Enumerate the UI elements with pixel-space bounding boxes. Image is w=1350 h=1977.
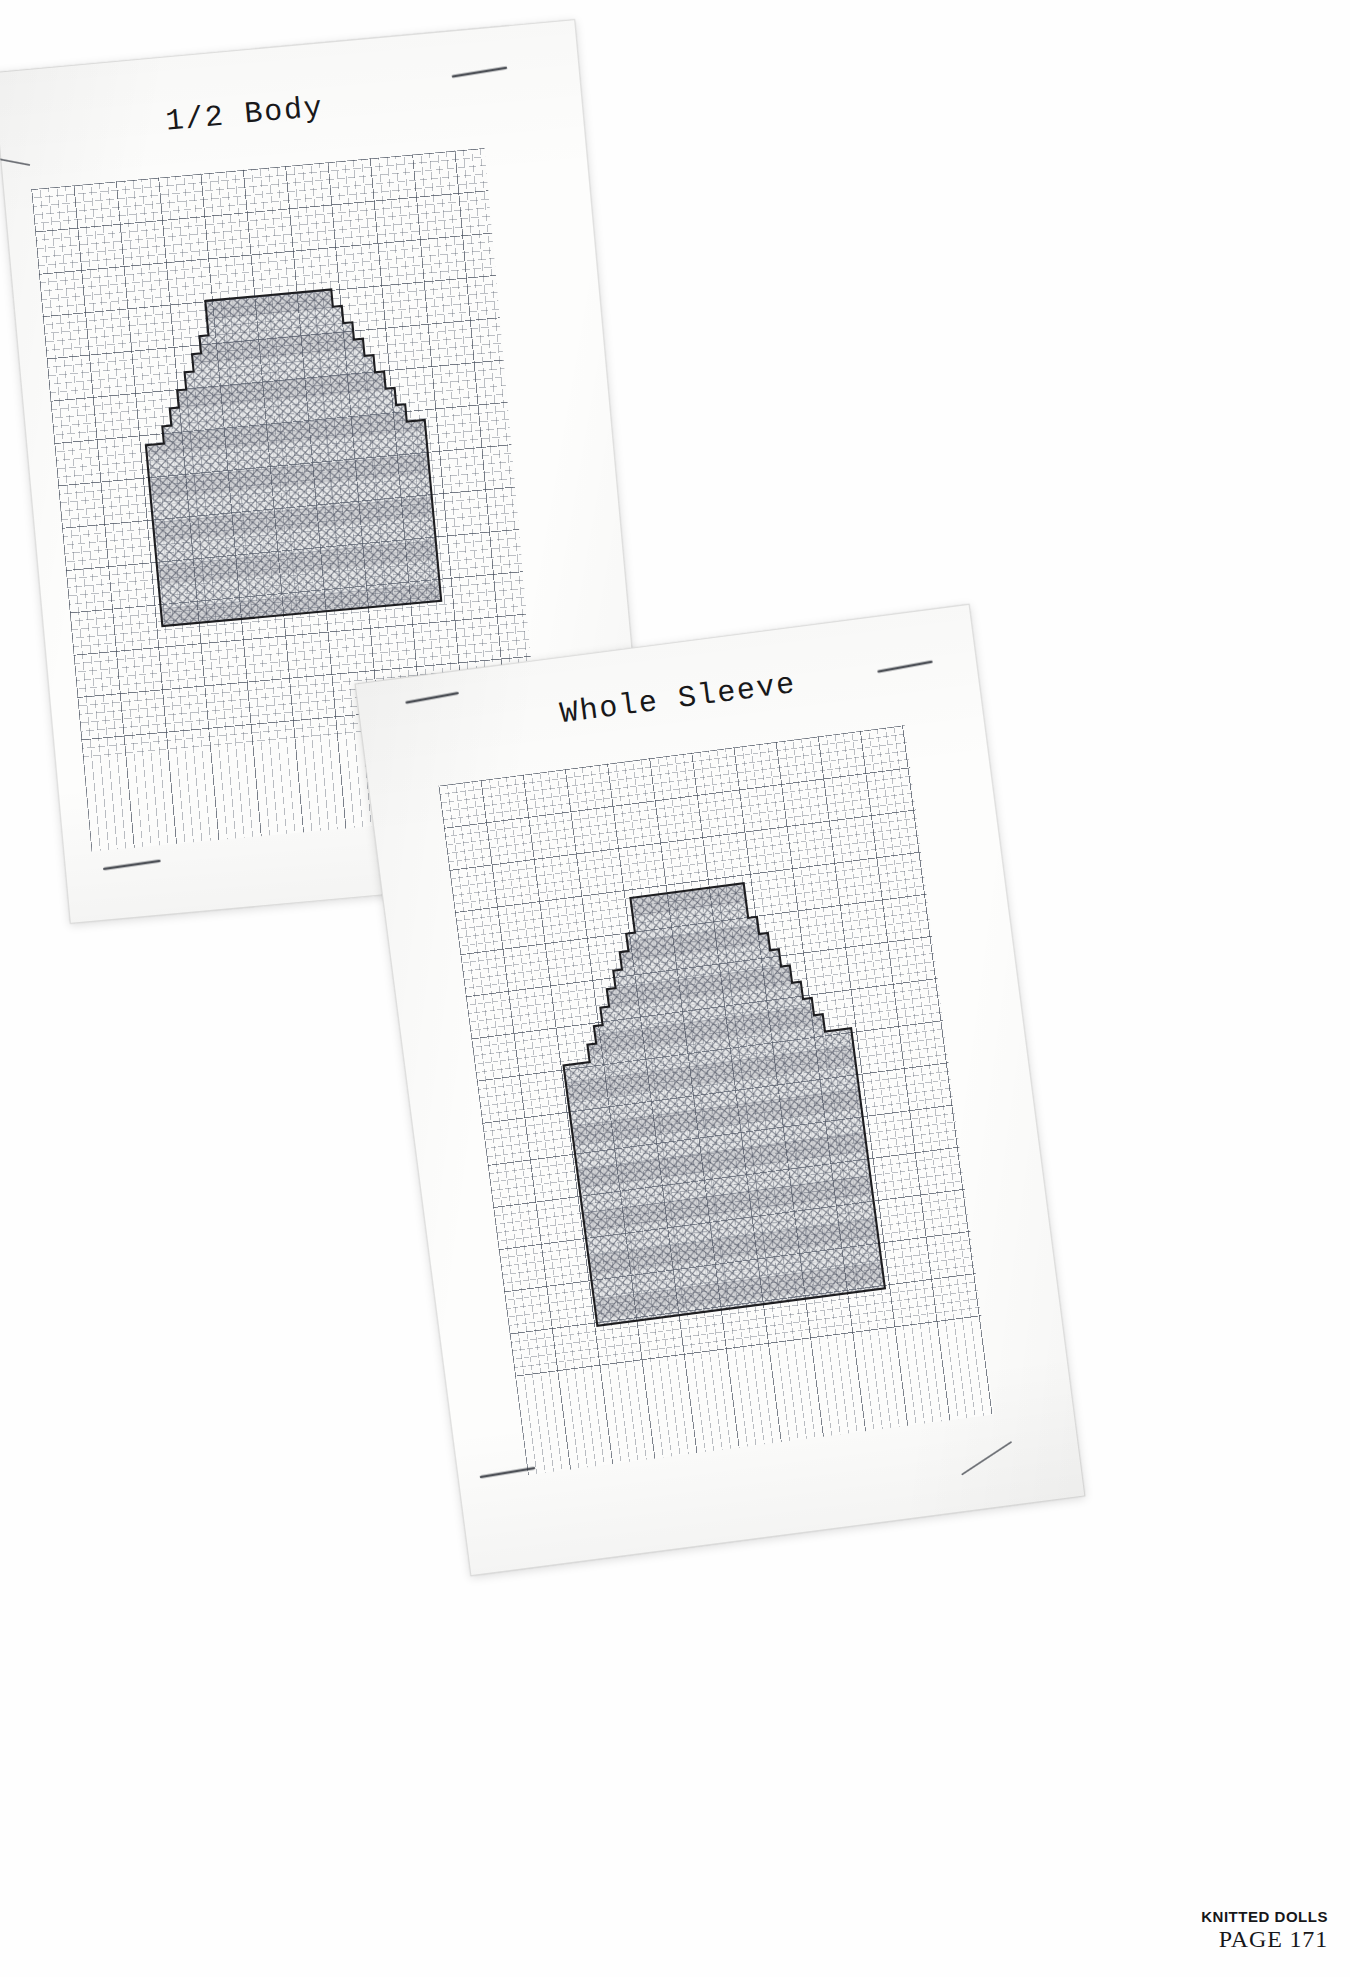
footer-page-number: PAGE 171 — [1201, 1926, 1328, 1953]
staple-bottom-left — [103, 859, 161, 871]
staple-top-left — [405, 691, 459, 705]
chart-title-half-body: 1/2 Body — [164, 90, 325, 138]
chart-vector-half-body — [133, 282, 441, 626]
staple-top-right — [451, 66, 507, 79]
pin-bottom-right — [961, 1440, 1013, 1476]
page-canvas: 1/2 Body Whole Sleeve KNITTED DOLLS — [0, 0, 1350, 1977]
knitting-chart-half-body — [133, 282, 441, 626]
page-footer: KNITTED DOLLS PAGE 171 — [1201, 1909, 1328, 1953]
staple-top-right — [877, 660, 933, 674]
chart-vector-whole-sleeve — [543, 872, 885, 1326]
sheet-whole-sleeve: Whole Sleeve — [355, 604, 1086, 1576]
chart-title-whole-sleeve: Whole Sleeve — [558, 667, 798, 731]
staple-left-edge — [0, 155, 30, 167]
footer-book-title: KNITTED DOLLS — [1201, 1909, 1328, 1926]
knitting-chart-whole-sleeve — [543, 872, 885, 1326]
